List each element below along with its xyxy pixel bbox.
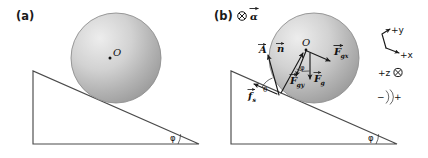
alpha-vector-label: α	[250, 11, 258, 22]
angle-theta-label: θ	[263, 86, 267, 94]
axis-y-label: +y	[391, 25, 405, 35]
sphere-center-dot-a	[109, 57, 112, 60]
figure-canvas: (a) O φ (b) α	[0, 0, 428, 158]
axis-z-into-page-cross-icon	[395, 70, 401, 76]
sphere-center-label-b: O	[302, 37, 310, 48]
axis-z-group: +z	[378, 68, 402, 78]
vector-n-label: n	[277, 43, 284, 54]
physics-figure: (a) O φ (b) α	[0, 0, 428, 158]
vector-Fgx-subscript: gx	[341, 52, 349, 60]
axis-z-label: +z	[378, 68, 391, 78]
panel-b-label: (b)	[214, 9, 233, 23]
into-page-cross-icon	[239, 13, 245, 19]
panel-a-label: (a)	[16, 9, 34, 23]
rotation-arc-inner-icon	[386, 91, 389, 104]
axes-legend: +y +x +z − +	[377, 25, 414, 105]
angular-acceleration-group: α	[238, 9, 259, 23]
incline-angle-label-b: φ	[368, 133, 374, 143]
axis-x-arrow	[386, 48, 399, 53]
sphere-a	[71, 13, 161, 103]
rotation-sign-convention-group: − +	[377, 90, 402, 105]
sphere-center-label-a: O	[113, 47, 121, 58]
rotation-negative-label: −	[377, 92, 385, 102]
vector-Fg-subscript: g	[321, 79, 326, 87]
angle-phi-center-label: φ	[300, 64, 305, 72]
axis-x-label: +x	[400, 50, 414, 60]
incline-angle-label-a: φ	[170, 133, 176, 143]
axis-y-arrow	[382, 29, 390, 48]
vector-A-label: A	[258, 44, 267, 55]
vector-fs-subscript: s	[253, 96, 257, 103]
rotation-arc-outer-icon	[390, 90, 393, 105]
vector-Fgy-subscript: gy	[297, 81, 305, 89]
rotation-positive-label: +	[394, 92, 402, 102]
panel-a: (a) O φ	[16, 9, 199, 144]
panel-b: (b) α O F gx	[214, 9, 397, 145]
